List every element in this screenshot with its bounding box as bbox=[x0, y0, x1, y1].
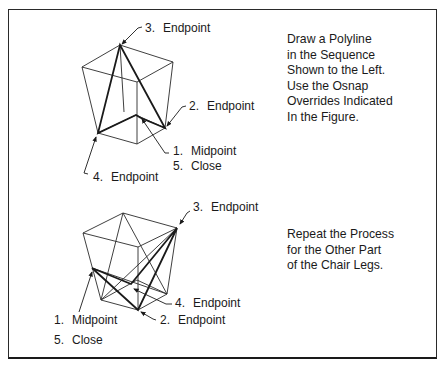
osnap-label: Endpoint bbox=[111, 170, 158, 184]
step-number: 2. bbox=[189, 99, 207, 113]
label-step-3-endpoint: 3.Endpoint bbox=[145, 21, 210, 35]
instruction-line: Repeat the Process bbox=[287, 227, 394, 243]
label-step-4-endpoint: 4.Endpoint bbox=[93, 170, 158, 184]
osnap-label: Midpoint bbox=[72, 313, 117, 327]
label-step-5-close: 5.Close bbox=[173, 159, 222, 173]
instruction-line: of the Chair Legs. bbox=[287, 258, 394, 274]
osnap-label: Close bbox=[72, 333, 103, 347]
label-step-2-endpoint: 2.Endpoint bbox=[189, 99, 254, 113]
osnap-label: Endpoint bbox=[193, 296, 240, 310]
bottom-leg-wireframe bbox=[83, 213, 177, 310]
step-number: 2. bbox=[160, 313, 178, 327]
osnap-label: Midpoint bbox=[191, 144, 236, 158]
label-step-4-endpoint: 4.Endpoint bbox=[175, 296, 240, 310]
step-number: 4. bbox=[93, 170, 111, 184]
step-number: 3. bbox=[145, 21, 163, 35]
label-step-2-endpoint: 2.Endpoint bbox=[160, 313, 225, 327]
instruction-line: In the Figure. bbox=[287, 110, 393, 126]
osnap-label: Endpoint bbox=[207, 99, 254, 113]
step-number: 4. bbox=[175, 296, 193, 310]
label-step-1-midpoint: 1.Midpoint bbox=[54, 313, 117, 327]
instruction-line: Draw a Polyline bbox=[287, 32, 393, 48]
label-step-3-endpoint: 3.Endpoint bbox=[193, 200, 258, 214]
top-instructions: Draw a Polyline in the Sequence Shown to… bbox=[287, 32, 393, 126]
step-number: 1. bbox=[54, 313, 72, 327]
label-step-5-close: 5.Close bbox=[54, 333, 103, 347]
step-number: 3. bbox=[193, 200, 211, 214]
step-number: 5. bbox=[173, 159, 191, 173]
osnap-label: Endpoint bbox=[163, 21, 210, 35]
top-polyline bbox=[98, 45, 165, 133]
instruction-line: Overrides Indicated bbox=[287, 94, 393, 110]
top-leader-lines bbox=[84, 27, 186, 174]
instruction-line: Use the Osnap bbox=[287, 79, 393, 95]
label-step-1-midpoint: 1.Midpoint bbox=[173, 144, 236, 158]
instruction-line: in the Sequence bbox=[287, 48, 393, 64]
instruction-line: Shown to the Left. bbox=[287, 63, 393, 79]
osnap-label: Close bbox=[191, 159, 222, 173]
step-number: 5. bbox=[54, 333, 72, 347]
osnap-label: Endpoint bbox=[178, 313, 225, 327]
step-number: 1. bbox=[173, 144, 191, 158]
bottom-instructions: Repeat the Process for the Other Part of… bbox=[287, 227, 394, 274]
osnap-label: Endpoint bbox=[211, 200, 258, 214]
instruction-line: for the Other Part bbox=[287, 243, 394, 259]
